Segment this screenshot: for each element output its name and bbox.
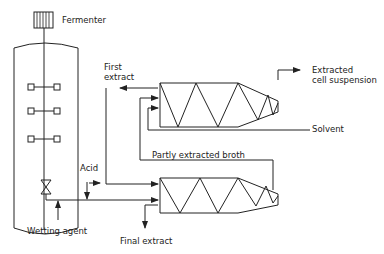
upper-extractor [160,83,278,127]
first-extract-label-line1: First [104,62,122,72]
extracted-label-line2: cell suspension [312,75,377,85]
final-extract-label: Final extract [120,236,172,246]
wetting-agent-label: Wetting agent [27,226,87,236]
valve-icon [41,180,51,194]
solvent-label: Solvent [312,124,344,134]
partly-extracted-broth-label: Partly extracted broth [152,150,245,160]
first-extract-label-line2: extract [104,72,134,82]
acid-label: Acid [80,163,98,173]
extracted-label-line1: Extracted [312,65,353,75]
lower-extractor [160,178,278,213]
fermenter-label: Fermenter [62,15,106,25]
